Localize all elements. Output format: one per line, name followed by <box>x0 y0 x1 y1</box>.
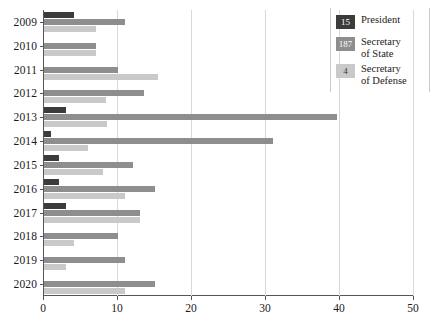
bar-group-2013: 2013 <box>43 105 413 129</box>
legend-label: Secretary of Defense <box>361 63 407 86</box>
x-axis-tick-label: 50 <box>407 302 419 314</box>
y-axis-tick-label: 2020 <box>14 278 37 290</box>
bar-2015-secretary-of-state <box>44 162 133 168</box>
chart-legend: 15President187Secretary of State4Secreta… <box>330 8 430 92</box>
bar-2010-secretary-of-state <box>44 43 96 49</box>
bar-2020-secretary-of-state <box>44 281 155 287</box>
bar-chart: 01020304050 2009201020112012201320142015… <box>0 0 433 328</box>
bar-2015-president <box>44 155 59 161</box>
y-axis-tick <box>40 236 43 237</box>
y-axis-tick-label: 2017 <box>14 207 37 219</box>
y-axis-tick <box>40 141 43 142</box>
bar-group-2016: 2016 <box>43 177 413 201</box>
y-axis-tick <box>40 189 43 190</box>
bar-2011-secretary-of-defense <box>44 74 158 80</box>
bar-2012-secretary-of-state <box>44 90 144 96</box>
bar-2017-secretary-of-defense <box>44 217 140 223</box>
y-axis-tick <box>40 284 43 285</box>
legend-item-secretary-of-state[interactable]: 187Secretary of State <box>331 34 429 61</box>
y-axis-tick <box>40 165 43 166</box>
y-axis-tick <box>40 22 43 23</box>
bar-2014-secretary-of-state <box>44 138 273 144</box>
y-axis-tick-label: 2015 <box>14 159 37 171</box>
bar-2017-secretary-of-state <box>44 210 140 216</box>
bar-group-2019: 2019 <box>43 248 413 272</box>
bar-2019-secretary-of-defense <box>44 264 66 270</box>
bar-2016-president <box>44 179 59 185</box>
y-axis-tick <box>40 213 43 214</box>
y-axis-tick-label: 2011 <box>14 64 37 76</box>
bar-group-2020: 2020 <box>43 272 413 296</box>
y-axis-tick <box>40 46 43 47</box>
bar-2009-president <box>44 12 74 18</box>
x-axis-tick-label: 40 <box>333 302 345 314</box>
legend-label: Secretary of State <box>361 36 401 59</box>
bar-2017-president <box>44 203 66 209</box>
y-axis-tick-label: 2012 <box>14 87 37 99</box>
bar-2018-secretary-of-state <box>44 233 118 239</box>
bar-2015-secretary-of-defense <box>44 169 103 175</box>
y-axis-tick <box>40 260 43 261</box>
bar-2014-president <box>44 131 51 137</box>
x-axis-tick-label: 30 <box>259 302 271 314</box>
x-axis-tick-label: 10 <box>111 302 123 314</box>
legend-item-secretary-of-defense[interactable]: 4Secretary of Defense <box>331 61 429 88</box>
y-axis-tick-label: 2013 <box>14 111 37 123</box>
x-axis-tick <box>117 296 118 300</box>
legend-swatch-count: 4 <box>336 64 355 78</box>
y-axis-tick-label: 2009 <box>14 16 37 28</box>
bar-2016-secretary-of-defense <box>44 193 125 199</box>
bar-group-2018: 2018 <box>43 225 413 249</box>
bar-2013-president <box>44 107 66 113</box>
bar-2020-secretary-of-defense <box>44 288 125 294</box>
bar-2014-secretary-of-defense <box>44 145 88 151</box>
bar-2010-secretary-of-defense <box>44 50 96 56</box>
y-axis-tick-label: 2016 <box>14 183 37 195</box>
legend-item-president[interactable]: 15President <box>331 12 429 34</box>
legend-swatch-count: 187 <box>336 37 355 51</box>
y-axis-tick-label: 2010 <box>14 40 37 52</box>
x-axis-tick <box>265 296 266 300</box>
x-axis-tick <box>191 296 192 300</box>
bar-2016-secretary-of-state <box>44 186 155 192</box>
y-axis-tick-label: 2019 <box>14 254 37 266</box>
bar-2009-secretary-of-defense <box>44 26 96 32</box>
legend-swatch-count: 15 <box>336 15 355 29</box>
x-axis-tick-label: 20 <box>185 302 197 314</box>
bar-group-2014: 2014 <box>43 129 413 153</box>
x-axis-tick <box>43 296 44 300</box>
bar-2019-secretary-of-state <box>44 257 125 263</box>
bar-2013-secretary-of-state <box>44 114 337 120</box>
bar-group-2017: 2017 <box>43 201 413 225</box>
y-axis-tick <box>40 70 43 71</box>
y-axis-tick <box>40 117 43 118</box>
x-axis-tick-label: 0 <box>40 302 46 314</box>
bar-2013-secretary-of-defense <box>44 121 107 127</box>
y-axis-tick-label: 2018 <box>14 230 37 242</box>
legend-label: President <box>361 14 400 26</box>
bar-2011-secretary-of-state <box>44 67 118 73</box>
y-axis-tick-label: 2014 <box>14 135 37 147</box>
bar-2012-secretary-of-defense <box>44 97 106 103</box>
x-axis-tick <box>413 296 414 300</box>
bar-2018-secretary-of-defense <box>44 240 74 246</box>
bar-group-2015: 2015 <box>43 153 413 177</box>
x-axis-tick <box>339 296 340 300</box>
bar-2009-secretary-of-state <box>44 19 125 25</box>
y-axis-tick <box>40 93 43 94</box>
